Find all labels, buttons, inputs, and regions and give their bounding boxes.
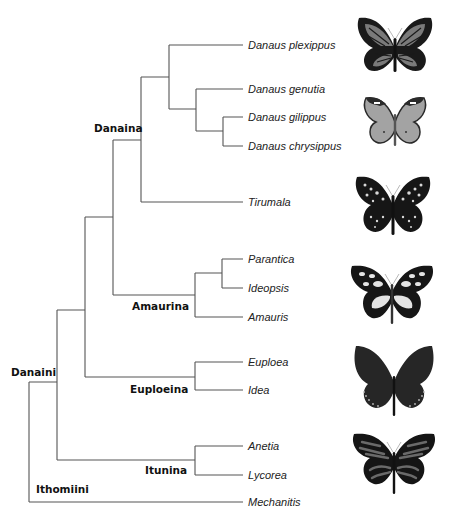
- leaf-label-danaus-plexippus: Danaus plexippus: [248, 39, 335, 51]
- amauris-butterfly-image: [351, 266, 433, 324]
- queen-butterfly-image: [364, 97, 425, 146]
- clade-label-ithomiini: Ithomiini: [36, 483, 89, 495]
- leaf-label-ideopsis: Ideopsis: [248, 282, 289, 294]
- leaf-label-mechanitis: Mechanitis: [248, 496, 301, 508]
- leaf-label-parantica: Parantica: [248, 253, 294, 265]
- branch-itunina: [195, 446, 243, 475]
- branch-genutia-node: [196, 89, 243, 131]
- lycorea-butterfly-image: [353, 434, 435, 494]
- clade-label-itunina: Itunina: [145, 464, 187, 476]
- branch-gilippus-chrysippus: [223, 117, 243, 146]
- leaf-label-euploea: Euploea: [248, 356, 288, 368]
- leaf-label-danaus-genutia: Danaus genutia: [248, 83, 325, 95]
- phylogeny-tree: [0, 0, 459, 518]
- branch-amaurina: [195, 273, 243, 317]
- tree-branches: [29, 45, 243, 502]
- branch-danaina-amaurina: [113, 140, 195, 295]
- leaf-label-danaus-chrysippus: Danaus chrysippus: [248, 140, 342, 152]
- monarch-butterfly-image: [358, 18, 432, 72]
- clade-label-amaurina: Amaurina: [132, 300, 189, 312]
- branch-danaina: [141, 77, 243, 202]
- euploea-butterfly-image: [355, 346, 434, 416]
- clade-label-danaini: Danaini: [11, 366, 56, 378]
- leaf-label-lycorea: Lycorea: [248, 469, 287, 481]
- tirumala-butterfly-image: [356, 177, 430, 235]
- branch-plexippus-node: [169, 45, 243, 109]
- branch-parantica-ideopsis: [222, 259, 243, 288]
- leaf-label-idea: Idea: [248, 384, 269, 396]
- leaf-label-danaus-gilippus: Danaus gilippus: [248, 111, 326, 123]
- leaf-label-anetia: Anetia: [248, 440, 279, 452]
- branch-euploeina: [195, 362, 243, 390]
- leaf-label-tirumala: Tirumala: [248, 196, 291, 208]
- branch-danaina-amaurina-euploeina: [85, 217, 195, 377]
- clade-label-danaina: Danaina: [94, 122, 143, 134]
- leaf-label-amauris: Amauris: [248, 311, 288, 323]
- clade-label-euploeina: Euploeina: [130, 383, 188, 395]
